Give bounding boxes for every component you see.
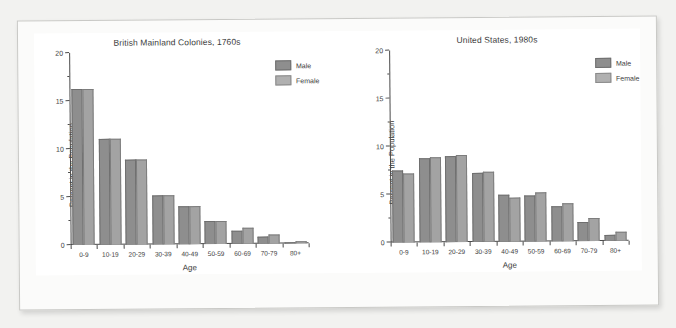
x-tick <box>229 244 255 248</box>
legend-label-female: Female <box>616 74 639 81</box>
y-tick-label: 10 <box>56 146 64 153</box>
bar-female <box>589 218 600 241</box>
bar-female <box>242 227 253 243</box>
bar-male <box>98 139 110 245</box>
bar-group <box>96 53 124 245</box>
bar-female <box>83 89 95 245</box>
chart-united-states: United States, 1980s Percent in the Popu… <box>337 15 659 308</box>
bar-male <box>152 195 163 244</box>
x-tick <box>97 245 123 249</box>
x-tick-label: 60-69 <box>549 247 575 254</box>
bar-female <box>536 192 547 241</box>
x-axis-title: Age <box>71 262 309 273</box>
legend-label-male: Male <box>616 59 631 66</box>
x-tick-label: 10-19 <box>417 248 443 255</box>
bar-male <box>205 221 216 244</box>
bar-group <box>548 49 576 241</box>
bar-female <box>163 195 174 244</box>
bar-male <box>498 195 509 242</box>
legend-item-male: Male <box>595 58 639 68</box>
x-tick-label: 20-29 <box>124 250 150 257</box>
bar-female <box>269 235 280 244</box>
x-tick-label: 70-79 <box>576 247 602 254</box>
x-tick-label: 50-59 <box>203 250 229 257</box>
y-tick-label: 20 <box>55 50 63 57</box>
x-tick-label: 30-39 <box>150 250 176 257</box>
bar-female <box>562 203 573 241</box>
x-tick-label: 30-39 <box>470 248 496 255</box>
bar-female <box>456 155 468 242</box>
y-tick-label: 20 <box>375 47 383 54</box>
bar-female <box>483 172 495 242</box>
bar-group <box>495 50 523 242</box>
y-tick-label: 10 <box>376 143 384 150</box>
x-tick-label: 80+ <box>602 247 628 254</box>
bar-female <box>216 221 227 244</box>
x-tick-label: 60-69 <box>229 250 255 257</box>
bar-male <box>578 222 589 241</box>
x-tick-label: 70-79 <box>256 249 282 256</box>
x-tick-label: 50-59 <box>523 247 549 254</box>
y-tick-label: 5 <box>60 194 64 201</box>
y-tick-label: 15 <box>376 95 384 102</box>
bar-group <box>389 50 417 242</box>
legend-swatch-male-icon <box>595 58 611 68</box>
bar-male <box>419 158 431 243</box>
x-tick <box>602 241 628 245</box>
x-tick <box>150 244 176 248</box>
x-tick <box>417 242 443 246</box>
y-tick-label: 15 <box>56 98 64 105</box>
legend-item-female: Female <box>595 73 639 83</box>
legend-item-male: Male <box>275 60 319 70</box>
x-tick-label: 20-29 <box>444 248 470 255</box>
bar-female <box>615 232 626 241</box>
x-tick-label: 40-49 <box>496 248 522 255</box>
bars-left <box>69 51 309 245</box>
plot-area-left: 05101520 0-910-1920-2930-3940-4950-5960-… <box>69 51 309 245</box>
legend-label-female: Female <box>296 77 319 84</box>
x-tick <box>71 245 97 249</box>
x-tick <box>256 243 282 247</box>
x-ticks-right <box>391 241 629 247</box>
charts-container: British Mainland Colonies, 1760s Percent… <box>17 15 659 310</box>
bar-group <box>201 52 229 244</box>
x-tick <box>282 243 308 247</box>
chart-title: United States, 1980s <box>337 33 657 46</box>
bar-female <box>136 159 148 245</box>
legend-swatch-male-icon <box>275 60 291 70</box>
bar-male <box>392 170 404 242</box>
plot-area-right: 05101520 0-910-1920-2930-3940-4950-5960-… <box>389 49 629 243</box>
bar-female <box>403 173 415 242</box>
y-tick-label: 0 <box>61 242 65 249</box>
legend-label-male: Male <box>296 62 311 69</box>
x-tick <box>523 241 549 245</box>
y-tick-label: 0 <box>381 239 385 246</box>
legend-swatch-female-icon <box>275 75 291 85</box>
bar-male <box>231 230 242 244</box>
x-tick <box>391 242 417 246</box>
bar-group <box>148 52 176 244</box>
x-tick-labels-left: 0-910-1920-2930-3940-4950-5960-6970-7980… <box>71 249 309 258</box>
x-tick <box>470 242 496 246</box>
bar-male <box>445 156 457 242</box>
x-tick <box>576 241 602 245</box>
bar-group <box>175 52 203 244</box>
bar-group <box>122 52 150 244</box>
x-tick <box>124 244 150 248</box>
bar-group <box>468 50 496 242</box>
chart-title: British Mainland Colonies, 1760s <box>17 36 337 49</box>
y-tick-label: 5 <box>380 191 384 198</box>
x-tick-label: 40-49 <box>176 250 202 257</box>
bar-male <box>125 159 137 245</box>
legend-item-female: Female <box>275 75 319 85</box>
bar-female <box>189 206 200 244</box>
scanned-page: British Mainland Colonies, 1760s Percent… <box>18 18 658 308</box>
bar-male <box>472 173 484 242</box>
bar-group <box>521 49 549 241</box>
x-tick <box>176 244 202 248</box>
x-axis-title: Age <box>391 260 629 271</box>
bar-group <box>69 53 97 245</box>
chart-british-mainland-colonies: British Mainland Colonies, 1760s Percent… <box>17 18 339 311</box>
x-tick <box>549 241 575 245</box>
bar-male <box>178 206 189 244</box>
